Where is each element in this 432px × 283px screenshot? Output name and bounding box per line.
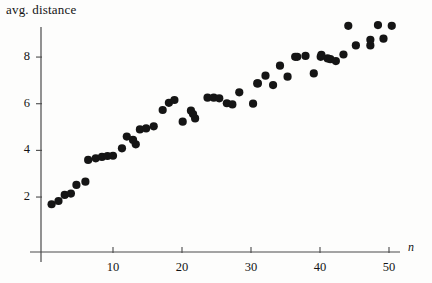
data-point — [332, 57, 340, 65]
y-tick-label-6: 6 — [8, 96, 30, 111]
data-point — [81, 178, 89, 186]
x-tick-label-40: 40 — [307, 260, 333, 275]
data-point — [374, 21, 382, 29]
data-point — [269, 81, 277, 89]
data-point — [109, 152, 117, 160]
data-point — [179, 118, 187, 126]
data-points — [47, 21, 395, 208]
data-point — [317, 51, 325, 59]
y-tick-label-2: 2 — [8, 189, 30, 204]
data-point — [54, 197, 62, 205]
data-point — [254, 79, 262, 87]
x-tick-label-20: 20 — [169, 260, 195, 275]
data-point — [283, 73, 291, 81]
axis-lines — [30, 27, 400, 262]
scatter-plot-figure: avg. distance n 2468 1020304050 — [0, 0, 432, 283]
data-point — [339, 50, 347, 58]
data-point — [150, 122, 158, 130]
x-tick-label-30: 30 — [238, 260, 264, 275]
data-point — [249, 100, 257, 108]
data-point — [118, 144, 126, 152]
x-tick-label-50: 50 — [376, 260, 402, 275]
y-tick-label-4: 4 — [8, 142, 30, 157]
data-point — [344, 22, 352, 30]
data-point — [366, 36, 374, 44]
data-point — [84, 156, 92, 164]
data-point — [170, 96, 178, 104]
x-tick-label-10: 10 — [100, 260, 126, 275]
y-tick-label-8: 8 — [8, 49, 30, 64]
data-point — [159, 106, 167, 114]
data-point — [310, 69, 318, 77]
data-point — [301, 52, 309, 60]
data-point — [235, 88, 243, 96]
data-point — [72, 181, 80, 189]
data-point — [379, 35, 387, 43]
data-point — [352, 41, 360, 49]
data-point — [129, 136, 137, 144]
data-point — [228, 100, 236, 108]
data-point — [142, 124, 150, 132]
data-point — [189, 110, 197, 118]
data-point — [293, 53, 301, 61]
data-point — [388, 22, 396, 30]
data-point — [276, 62, 284, 70]
axis-ticks — [36, 57, 389, 253]
data-point — [67, 189, 75, 197]
data-point — [215, 94, 223, 102]
plot-canvas — [0, 0, 432, 283]
data-point — [261, 72, 269, 80]
